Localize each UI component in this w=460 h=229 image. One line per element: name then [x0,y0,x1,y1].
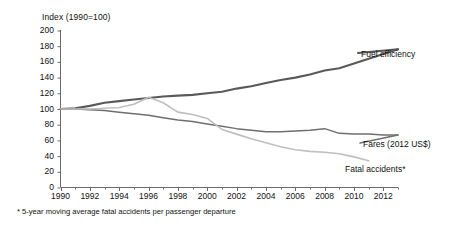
y-axis-tick-label: 120 [28,89,54,97]
y-axis-tick-label: 200 [28,26,54,34]
y-axis-tick-label: 40 [28,152,54,160]
series-line-fuel-efficiency [61,49,399,109]
x-axis-tick-label: 2012 [363,192,403,201]
y-axis-tick-label: 180 [28,42,54,50]
series-label-fatal-accidents: Fatal accidents* [345,164,405,174]
series-label-fuel-efficiency: Fuel efficiency [361,49,415,59]
legend-leader-lines [358,49,398,143]
chart-container: Index (1990=100) 02040608010012014016018… [0,0,460,229]
y-axis-tick-label: 20 [28,167,54,175]
series-label-fares: Fares (2012 US$) [363,139,431,149]
chart-footnote: * 5-year moving average fatal accidents … [17,207,236,216]
y-axis-tick-label: 100 [28,105,54,113]
y-axis-tick-label: 60 [28,136,54,144]
y-axis-tick-label: 0 [28,183,54,191]
data-series-lines [61,49,399,160]
y-axis-tick-label: 80 [28,120,54,128]
y-axis-tick-label: 140 [28,73,54,81]
y-axis-tick-label: 160 [28,57,54,65]
